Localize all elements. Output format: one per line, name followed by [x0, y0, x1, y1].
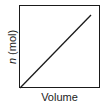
- y-axis-variable: n: [6, 58, 18, 64]
- x-axis-label: Volume: [19, 91, 100, 103]
- y-axis-label: n (mol): [6, 30, 18, 64]
- chart: Volume n (mol): [0, 0, 109, 109]
- y-axis-unit: (mol): [6, 30, 18, 58]
